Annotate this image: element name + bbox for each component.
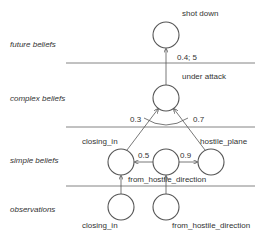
edge-label-fhd-closing: 0.5: [138, 151, 150, 160]
node-hostile-plane: [198, 149, 224, 175]
node-under-attack: [153, 85, 179, 111]
edge-label-shot-down: 0.4; 5: [177, 53, 198, 62]
level-label-future: future beliefs: [10, 40, 56, 49]
level-label-simple: simple beliefs: [10, 156, 58, 165]
belief-network-diagram: future beliefs complex beliefs simple be…: [0, 0, 275, 233]
edge-label-fhd-hostile: 0.9: [180, 151, 192, 160]
node-label-obs-from-hostile-direction: from_hostile_direction: [172, 221, 250, 230]
node-label-shot-down: shot down: [182, 9, 218, 18]
node-obs-closing-in: [108, 194, 134, 220]
level-label-complex: complex beliefs: [10, 94, 65, 103]
edge-label-hostile-plane: 0.7: [193, 115, 205, 124]
node-label-hostile-plane: hostile_plane: [200, 137, 248, 146]
node-from-hostile-direction: [153, 149, 179, 175]
node-label-under-attack: under attack: [182, 72, 227, 81]
edge-label-closing-in: 0.3: [130, 115, 142, 124]
level-label-observations: observations: [10, 205, 55, 214]
node-obs-from-hostile-direction: [153, 194, 179, 220]
node-label-from-hostile-direction: from_hostile_direction: [128, 175, 206, 184]
node-closing-in: [108, 149, 134, 175]
node-shot-down: [153, 22, 179, 48]
node-label-closing-in: closing_in: [82, 137, 118, 146]
node-label-obs-closing-in: closing_in: [82, 221, 118, 230]
